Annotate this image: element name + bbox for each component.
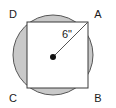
geometry-figure: 6" D A C B	[0, 0, 116, 108]
circle-center-dot	[50, 54, 56, 60]
vertex-label-a: A	[94, 8, 102, 20]
radius-measure-label: 6"	[62, 28, 72, 40]
vertex-label-b: B	[94, 92, 101, 104]
figure-canvas: 6" D A C B	[0, 0, 116, 108]
vertex-label-c: C	[9, 92, 17, 104]
inscribed-square	[27, 22, 88, 88]
vertex-label-d: D	[9, 8, 17, 20]
